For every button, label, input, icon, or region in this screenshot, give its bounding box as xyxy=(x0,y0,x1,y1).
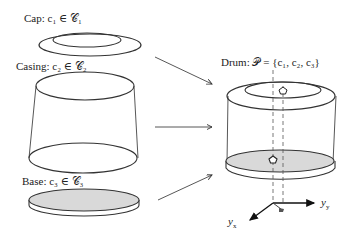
axis-label-y-x: yx xyxy=(228,215,236,230)
pentagon-marker-top xyxy=(279,87,287,94)
arrow-cap-to-drum xyxy=(155,57,212,84)
direction-marker xyxy=(279,208,284,212)
assembly-diagram xyxy=(0,0,355,237)
casing-part xyxy=(29,72,138,173)
drum-assembly xyxy=(226,70,336,203)
base-part xyxy=(29,189,139,216)
base-label: Base: c₃ ∈ 𝒞₃ xyxy=(22,175,83,188)
coordinate-axes xyxy=(250,203,314,220)
drum-label: Drum: 𝒫 = {c₁, c₂, c₃} xyxy=(221,56,320,69)
axis-label-y-y: yy xyxy=(321,196,329,211)
casing-label: Casing: c₂ ∈ 𝒞₂ xyxy=(16,60,87,73)
cap-part xyxy=(39,33,141,56)
cap-label: Cap: c₁ ∈ 𝒞₁ xyxy=(24,12,82,25)
arrow-base-to-drum xyxy=(158,175,212,200)
